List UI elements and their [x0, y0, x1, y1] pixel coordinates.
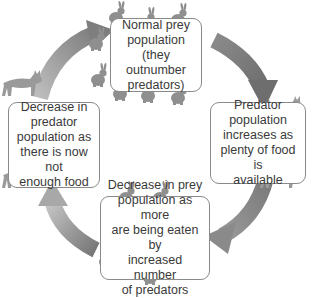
stage-text-line: are being eaten by [105, 223, 205, 253]
stage-text-line: available [215, 173, 301, 188]
stage-text-line: population [215, 113, 301, 128]
stage-text-line: Predator [215, 98, 301, 113]
stage-text-line: predators) [115, 78, 197, 93]
stage-text-line: Decrease in prey [105, 178, 205, 193]
stage-text-line: increases as [215, 128, 301, 143]
stage-text-line: of predators [105, 283, 205, 298]
stage-text-line: population as more [105, 193, 205, 223]
stage-text-line: population as [13, 130, 95, 145]
stage-box-predator-increase: Predator population increases as plenty … [210, 102, 306, 184]
stage-text-line: plenty of food is [215, 143, 301, 173]
stage-box-prey-decrease: Decrease in prey population as more are … [100, 196, 210, 280]
stage-text-line: population [115, 33, 197, 48]
stage-text-line: Normal prey [115, 18, 197, 33]
stage-text-line: predator [13, 115, 95, 130]
stage-text-line: Decrease in [13, 100, 95, 115]
stage-text-line: there is now not [13, 145, 95, 175]
stage-text-line: increased number [105, 253, 205, 283]
stage-text-line: (they outnumber [115, 48, 197, 78]
stage-text-line: enough food [13, 175, 95, 190]
stage-box-predator-decrease: Decrease in predator population as there… [8, 102, 100, 188]
lynx-icon [2, 70, 42, 96]
stage-box-normal-prey: Normal prey population (they outnumber p… [110, 18, 202, 92]
